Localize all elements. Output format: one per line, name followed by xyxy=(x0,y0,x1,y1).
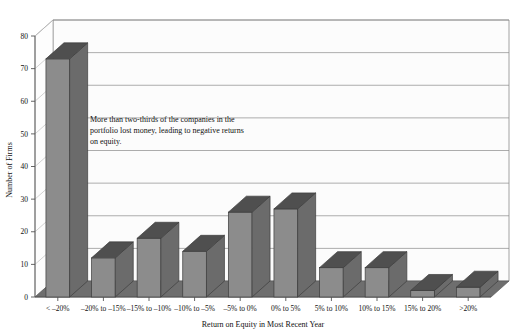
bar-4 xyxy=(228,196,270,297)
x-tick-label: –5% to 0% xyxy=(223,304,257,313)
annotation-line: More than two-thirds of the companies in… xyxy=(90,115,235,124)
bar-5 xyxy=(274,193,316,297)
y-tick-label: 0 xyxy=(24,293,28,302)
chart-y-axis: 01020304050607080 xyxy=(21,32,36,302)
x-tick-label: < –20% xyxy=(46,304,70,313)
x-tick-label: –10% to –5% xyxy=(173,304,215,313)
y-axis-title: Number of Firms xyxy=(5,142,14,198)
bar-2 xyxy=(137,222,179,297)
x-tick-label: –15% to –10% xyxy=(126,304,172,313)
y-tick-label: 70 xyxy=(21,64,29,73)
y-tick-label: 50 xyxy=(21,130,29,139)
y-tick-label: 40 xyxy=(21,162,29,171)
x-tick-label: 10% to 15% xyxy=(358,304,395,313)
y-tick-label: 10 xyxy=(21,260,29,269)
y-tick-label: 20 xyxy=(21,227,29,236)
bar-0 xyxy=(46,43,88,297)
x-tick-label: 15% to 20% xyxy=(404,304,441,313)
chart-canvas: 01020304050607080 < –20%–20% to –15%–15%… xyxy=(0,0,516,334)
x-axis-title: Return on Equity in Most Recent Year xyxy=(202,320,325,329)
annotation-line: on equity. xyxy=(90,137,121,146)
chart-x-axis: < –20%–20% to –15%–15% to –10%–10% to –5… xyxy=(46,297,477,313)
y-tick-label: 60 xyxy=(21,97,29,106)
x-tick-label: –20% to –15% xyxy=(80,304,126,313)
roe-distribution-chart: 01020304050607080 < –20%–20% to –15%–15%… xyxy=(0,0,516,334)
y-tick-label: 80 xyxy=(21,32,29,41)
x-tick-label: 0% to 5% xyxy=(271,304,301,313)
x-tick-label: >20% xyxy=(459,304,477,313)
x-tick-label: 5% to 10% xyxy=(315,304,348,313)
y-tick-label: 30 xyxy=(21,195,29,204)
annotation-line: portfolio lost money, leading to negativ… xyxy=(90,126,244,135)
